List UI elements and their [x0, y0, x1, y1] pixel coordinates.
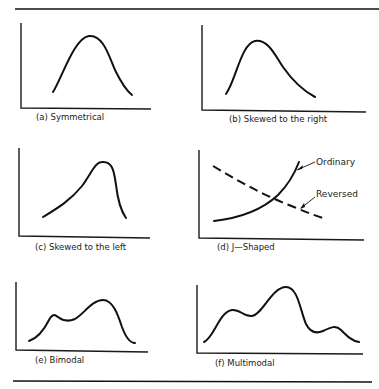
axes	[19, 148, 150, 238]
caption-a: (a) Symmetrical	[36, 112, 104, 122]
axes	[197, 285, 363, 354]
reversed-label: Reversed	[316, 189, 358, 199]
arrowhead-icon	[300, 203, 305, 209]
panel-symmetrical: (a) Symmetrical	[21, 23, 151, 122]
ordinary-label: Ordinary	[316, 157, 356, 167]
reversed-j-curve	[213, 166, 326, 219]
symmetrical-curve	[53, 36, 132, 95]
left-skewed-curve	[43, 162, 126, 218]
multimodal-curve	[204, 287, 359, 342]
caption-c: (c) Skewed to the left	[35, 242, 127, 252]
caption-d: (d) J—Shaped	[217, 242, 275, 252]
caption-e: (e) Bimodal	[35, 355, 84, 365]
bimodal-curve	[29, 300, 135, 343]
panel-j-shaped: Ordinary Reversed (d) J—Shaped	[199, 150, 364, 252]
panel-multimodal: (f) Multimodal	[197, 285, 363, 368]
bottom-rule	[13, 381, 372, 382]
ordinary-j-curve	[214, 162, 299, 221]
panel-skewed-right: (b) Skewed to the right	[202, 25, 366, 124]
right-skewed-curve	[226, 41, 315, 97]
distribution-shapes-figure: (a) Symmetrical (b) Skewed to the right …	[0, 0, 379, 389]
caption-b: (b) Skewed to the right	[229, 114, 328, 124]
axes	[16, 282, 148, 352]
panel-skewed-left: (c) Skewed to the left	[19, 148, 150, 252]
caption-f: (f) Multimodal	[215, 358, 275, 368]
panel-bimodal: (e) Bimodal	[16, 282, 148, 365]
